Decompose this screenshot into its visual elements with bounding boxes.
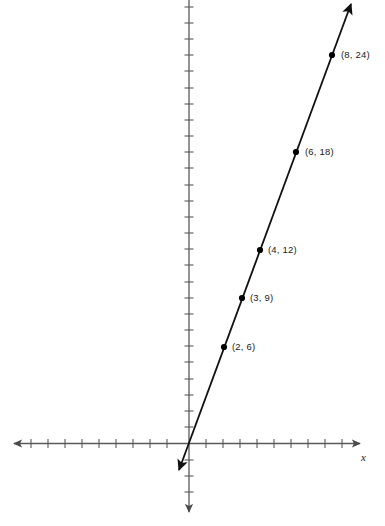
coordinate-plane-graph: (2, 6) (3, 9) (4, 12) (6, 18) (8, 24) x: [0, 0, 385, 526]
data-point: [239, 295, 245, 301]
data-point: [257, 247, 263, 253]
data-point: [293, 149, 299, 155]
point-label-3-9: (3, 9): [250, 292, 273, 303]
point-label-6-18: (6, 18): [305, 146, 334, 157]
data-point: [221, 344, 227, 350]
point-label-2-6: (2, 6): [232, 341, 255, 352]
point-label-4-12: (4, 12): [268, 244, 297, 255]
plotted-line: [179, 4, 351, 470]
graph-canvas: [0, 0, 385, 526]
data-point: [329, 52, 335, 58]
x-axis-label: x: [361, 451, 366, 463]
point-label-8-24: (8, 24): [341, 49, 370, 60]
